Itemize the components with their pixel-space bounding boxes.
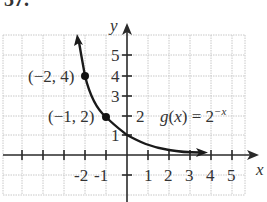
y-tick-label: 2 — [136, 107, 145, 126]
y-tick-label: 5 — [111, 46, 120, 65]
problem-number: 37. — [4, 0, 29, 10]
y-tick-label: 3 — [111, 87, 120, 106]
function-curve — [79, 42, 200, 153]
x-tick-label: 1 — [144, 166, 153, 185]
x-tick-label: 2 — [164, 166, 173, 185]
x-tick-label: 3 — [185, 166, 194, 185]
y-axis — [122, 30, 132, 202]
point-label: (−2, 4) — [28, 67, 74, 86]
point-marker — [102, 113, 110, 121]
y-axis-label: y — [108, 16, 118, 35]
x-tick-label: 4 — [206, 166, 215, 185]
point-label: (−1, 2) — [48, 107, 94, 126]
graph-figure: 37. — [0, 0, 267, 202]
function-exponent: −x — [214, 105, 226, 117]
coordinate-plane: 37. — [0, 0, 267, 202]
function-label: g(x) = 2−x — [160, 105, 226, 126]
x-tick-label: 5 — [227, 166, 236, 185]
x-tick-label: -1 — [94, 166, 108, 185]
x-axis-label: x — [255, 160, 264, 179]
x-tick-label: -2 — [74, 166, 88, 185]
y-tick-label: 4 — [111, 67, 120, 86]
point-marker — [81, 72, 89, 80]
